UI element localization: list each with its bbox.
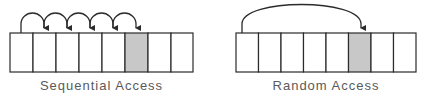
array-cell: [148, 33, 171, 72]
array-cell: [56, 33, 79, 72]
direct-jump-arrow: [242, 5, 361, 34]
array-cell: [259, 33, 282, 72]
array-cell: [33, 33, 56, 72]
hop-arrow: [113, 13, 136, 28]
random-array: [236, 33, 416, 72]
sequential-access-caption: Sequential Access: [10, 78, 193, 93]
sequential-hop-arrows: [21, 13, 136, 33]
random-access-caption: Random Access: [236, 78, 416, 93]
hop-arrow: [21, 13, 44, 33]
hop-arrow: [44, 13, 67, 28]
array-cell: [371, 33, 394, 72]
array-cell-highlighted: [349, 33, 372, 72]
array-cell: [236, 33, 259, 72]
array-cell: [394, 33, 417, 72]
sequential-array: [10, 33, 193, 72]
array-cell-highlighted: [125, 33, 148, 72]
array-cell: [10, 33, 33, 72]
array-cell: [304, 33, 327, 72]
hop-arrow: [67, 13, 90, 28]
array-cell: [326, 33, 349, 72]
array-cell: [171, 33, 193, 72]
array-cell: [281, 33, 304, 72]
array-cell: [102, 33, 125, 72]
hop-arrow: [90, 13, 113, 28]
array-cell: [79, 33, 102, 72]
